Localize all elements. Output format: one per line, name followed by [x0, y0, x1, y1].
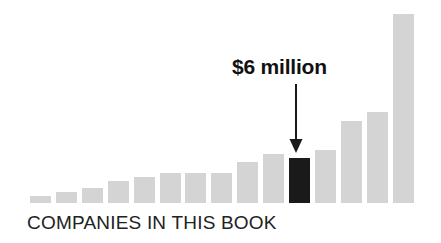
bar [211, 173, 232, 203]
bar-highlighted [289, 158, 310, 203]
bar [367, 112, 388, 203]
annotation-arrow-icon [288, 84, 304, 154]
chart-plot-area [0, 0, 441, 243]
bar [185, 173, 206, 203]
bar [263, 154, 284, 203]
bar [30, 196, 51, 203]
bar [237, 162, 258, 203]
chart-x-axis-caption: COMPANIES IN THIS BOOK [27, 213, 277, 234]
bar [160, 173, 181, 203]
annotation-value-label: $6 million [232, 56, 327, 77]
bar [82, 188, 103, 203]
bar [315, 150, 336, 203]
bar [341, 121, 362, 203]
bar [134, 177, 155, 203]
bar-chart-figure: $6 million COMPANIES IN THIS BOOK [0, 0, 441, 243]
bar [56, 192, 77, 203]
bar [108, 181, 129, 203]
bar [393, 14, 414, 203]
